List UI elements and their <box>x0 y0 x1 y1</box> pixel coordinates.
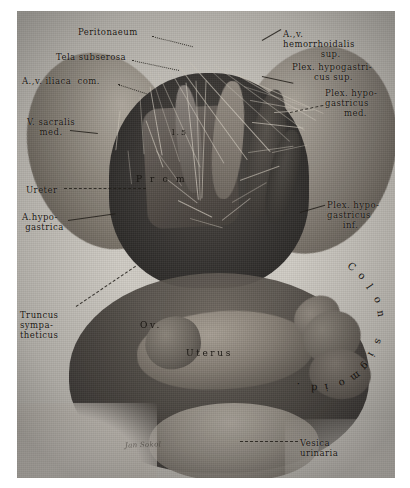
colon-sigmoid-char: i <box>324 382 329 393</box>
colon-sigmoid-char: C <box>346 260 358 273</box>
colon-sigmoid-char: o <box>372 295 384 305</box>
label-av-hemorrhoidalis-sup: A.,v. hemorrhoidalis sup. <box>283 29 355 59</box>
leader-ureter <box>64 188 146 189</box>
label-plex-hypogastricus-sup: Plex. hypogastri- cus sup. <box>292 62 372 82</box>
colon-sigmoid-char: l <box>364 282 375 291</box>
label-plex-hypogastricus-med: Plex. hypo- gastricus med. <box>325 88 377 118</box>
label-v-sacralis-med: V. sacralis med. <box>27 117 75 137</box>
colon-sigmoid-char: d <box>310 383 317 394</box>
label-uterus: Uterus <box>186 348 233 358</box>
artist-signature: Jan Sokol <box>125 440 161 449</box>
colon-sigmoid-char: s <box>373 338 385 346</box>
colon-sigmoid-char: m <box>349 369 363 383</box>
label-vertebra-l5: l.5 <box>172 128 188 137</box>
label-colon-sigmoideum: Colonsigmoid. <box>303 303 393 413</box>
colon-sigmoid-char: n <box>376 309 388 317</box>
colon-sigmoid-char: o <box>337 377 347 389</box>
colon-sigmoid-char: g <box>359 361 371 373</box>
leader-peritonaeum <box>152 36 193 47</box>
label-ovarium: Ov. <box>140 320 162 330</box>
leader-vesica <box>240 441 298 442</box>
label-plex-hypogastricus-inf: Plex. hypo- gastricus inf. <box>327 200 379 230</box>
label-tela-subserosa: Tela subserosa <box>56 52 126 62</box>
leader-tela-subserosa <box>132 60 179 71</box>
label-a-hypogastrica: A.hypo- gastrica <box>22 212 64 232</box>
colon-sigmoid-char: i <box>366 351 377 359</box>
label-promontorium: P r o m <box>136 174 187 184</box>
label-vesica-urinaria: Vesica urinaria <box>300 438 338 458</box>
label-av-iliaca-com: A.,v. iliaca com. <box>22 76 100 86</box>
anatomical-plate: l.5P r o mOv.Uterus Colonsigmoid. Jan So… <box>0 0 410 488</box>
leader-hemorrhoidalis <box>262 29 282 41</box>
colon-sigmoid-char: o <box>356 269 368 281</box>
label-peritonaeum: Peritonaeum <box>78 27 138 37</box>
label-truncus-sympatheticus: Truncus sympa- theticus <box>20 310 58 340</box>
label-ureter: Ureter <box>26 185 57 195</box>
